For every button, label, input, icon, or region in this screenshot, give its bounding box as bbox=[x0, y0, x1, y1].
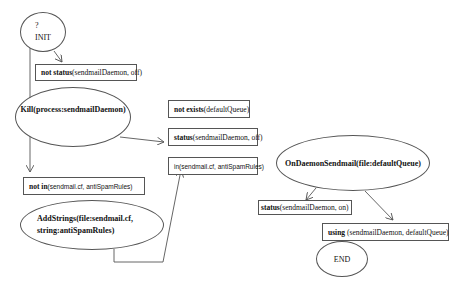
arrow-kill-to-status-off bbox=[120, 137, 164, 142]
init-label: INIT bbox=[35, 32, 51, 44]
condition-in-rules[interactable]: in(sendmail.cf, antiSpamRules) bbox=[168, 157, 258, 175]
init-node[interactable]: ? INIT bbox=[20, 12, 66, 52]
condition-args: (defaultQueue) bbox=[204, 105, 249, 114]
condition-not-exists-queue[interactable]: not exists(defaultQueue) bbox=[168, 100, 250, 118]
condition-args: (sendmailDaemon, on) bbox=[280, 203, 349, 212]
condition-args: (sendmailDaemon, off) bbox=[72, 68, 142, 77]
action-label-line2: string:antiSpamRules) bbox=[37, 225, 133, 237]
action-label: Kill(process:sendmailDaemon) bbox=[20, 105, 125, 114]
init-question-mark: ? bbox=[35, 20, 51, 32]
condition-keyword: status bbox=[174, 133, 193, 142]
condition-args: (sendmail.cf, antiSpamRules) bbox=[48, 183, 133, 190]
condition-using[interactable]: using (sendmailDaemon, defaultQueue) bbox=[322, 223, 449, 241]
flow-diagram: ? INIT not status(sendmailDaemon, off) K… bbox=[0, 0, 475, 290]
condition-keyword: using bbox=[328, 228, 345, 237]
arrow-ondaemon-to-using bbox=[365, 191, 393, 220]
end-label: END bbox=[334, 255, 350, 264]
action-label-line1: AddStrings(file:sendmail.cf, bbox=[37, 213, 133, 225]
condition-not-status-off[interactable]: not status(sendmailDaemon, off) bbox=[35, 64, 137, 81]
end-node[interactable]: END bbox=[316, 241, 368, 277]
trigger-label: OnDaemonSendmail(file:defaultQueue) bbox=[285, 159, 421, 168]
condition-keyword: status bbox=[261, 203, 280, 212]
condition-not-in-rules[interactable]: not in(sendmail.cf, antiSpamRules) bbox=[23, 177, 145, 195]
condition-keyword: not exists bbox=[174, 105, 204, 114]
condition-keyword: not in bbox=[29, 182, 48, 191]
condition-status-off[interactable]: status(sendmailDaemon, off) bbox=[168, 128, 258, 146]
arrow-ondaemon-to-status-on bbox=[306, 188, 316, 200]
condition-status-on[interactable]: status(sendmailDaemon, on) bbox=[258, 200, 352, 215]
condition-keyword: not status bbox=[41, 68, 72, 77]
action-kill[interactable]: Kill(process:sendmailDaemon) bbox=[15, 87, 131, 147]
trigger-ondaemon-sendmail[interactable]: OnDaemonSendmail(file:defaultQueue) bbox=[276, 135, 430, 191]
arrow-init-to-not-status bbox=[54, 51, 62, 62]
condition-args: (sendmailDaemon, defaultQueue) bbox=[345, 228, 449, 237]
condition-args: (sendmail.cf, antiSpamRules) bbox=[179, 163, 264, 170]
action-addstrings[interactable]: AddStrings(file:sendmail.cf, string:anti… bbox=[20, 200, 164, 250]
condition-args: (sendmailDaemon, off) bbox=[193, 133, 263, 142]
